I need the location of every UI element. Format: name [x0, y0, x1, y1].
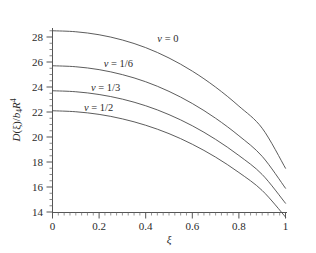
y-tick-label: 28 [32, 31, 44, 43]
curve-label-1: v = 0 [157, 33, 178, 44]
y-tick-label: 22 [32, 106, 43, 118]
x-tick-label: 0.4 [139, 220, 153, 232]
y-tick-label: 20 [32, 131, 44, 143]
line-chart: 1416182022242628 00.20.40.60.81 v = 0v =… [0, 0, 316, 253]
x-tick-label: 0.8 [232, 220, 246, 232]
curve-label-3: v = 1/3 [91, 82, 120, 93]
y-tick-label: 24 [32, 81, 44, 93]
curve-label-4: v = 1/2 [84, 102, 113, 113]
svg-text:D(ξ)/b4R4: D(ξ)/b4R4 [9, 98, 24, 142]
y-tick-label: 26 [32, 56, 44, 68]
x-tick-label: 0.2 [92, 220, 106, 232]
x-axis-title: ξ [167, 233, 172, 246]
y-tick-label: 14 [32, 206, 44, 218]
x-tick-label: 0 [50, 220, 56, 232]
y-axis-title: D(ξ)/b4R4 [9, 98, 24, 142]
y-tick-label: 16 [32, 181, 44, 193]
chart-figure: 1416182022242628 00.20.40.60.81 v = 0v =… [0, 0, 316, 253]
curve-label-2: v = 1/6 [104, 58, 133, 69]
y-tick-label: 18 [32, 156, 44, 168]
x-tick-label: 1 [283, 220, 289, 232]
x-tick-label: 0.6 [185, 220, 199, 232]
